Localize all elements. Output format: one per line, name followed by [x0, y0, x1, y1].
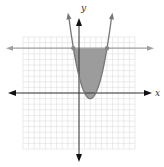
y-axis-arrow-up-icon: [76, 18, 82, 26]
parabola-arrow-right-icon: [109, 13, 114, 20]
intersection-point: [71, 46, 75, 50]
y-axis-label: y: [80, 3, 87, 13]
intersection-point: [105, 46, 109, 50]
x-axis-label: x: [155, 88, 160, 98]
x-axis-arrow-right-icon: [144, 90, 152, 96]
y-axis-arrow-down-icon: [76, 154, 82, 162]
line-arrow-right-icon: [147, 46, 154, 51]
line-arrow-left-icon: [6, 46, 13, 51]
x-axis-arrow-left-icon: [8, 90, 16, 96]
graph: x y: [0, 0, 164, 167]
parabola-arrow-left-icon: [66, 13, 71, 20]
